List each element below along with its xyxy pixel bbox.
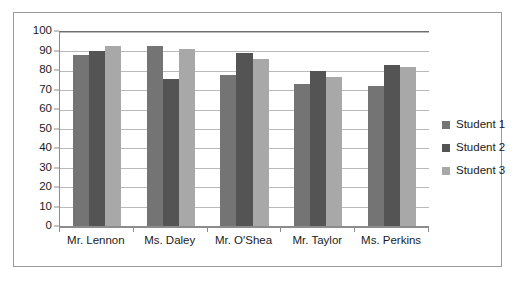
bar[interactable] <box>73 55 89 226</box>
chart-screenshot: 1009080706050403020100 Mr. LennonMs. Dal… <box>0 0 517 282</box>
bar[interactable] <box>220 75 236 226</box>
y-tick-mark-40 <box>54 148 59 149</box>
bar[interactable] <box>179 49 195 226</box>
bar-group <box>147 32 195 226</box>
y-tick-label-60: 60 <box>39 103 52 115</box>
bar[interactable] <box>310 71 326 226</box>
legend-item-label: Student 2 <box>456 142 505 154</box>
x-tick-label: Mr. Taylor <box>292 235 342 247</box>
x-tick-label: Ms. Daley <box>144 235 195 247</box>
x-tick-label: Ms. Perkins <box>361 235 421 247</box>
y-tick-mark-80 <box>54 70 59 71</box>
y-tick-label-30: 30 <box>39 162 52 174</box>
y-tick-label-80: 80 <box>39 64 52 76</box>
y-tick-label-50: 50 <box>39 123 52 135</box>
legend-swatch-icon <box>442 144 450 152</box>
bar[interactable] <box>163 79 179 226</box>
y-tick-label-100: 100 <box>33 25 52 37</box>
x-tick-mark <box>354 226 355 232</box>
bar[interactable] <box>326 77 342 226</box>
bar[interactable] <box>294 84 310 226</box>
x-tick-mark <box>59 226 60 232</box>
gridline-0 <box>60 226 429 228</box>
y-tick-label-0: 0 <box>46 220 52 232</box>
bar-group <box>368 32 416 226</box>
x-tick-mark <box>428 226 429 232</box>
x-tick-mark <box>207 226 208 232</box>
legend-item[interactable]: Student 3 <box>442 159 505 182</box>
x-tick-label: Mr. Lennon <box>67 235 125 247</box>
bar[interactable] <box>105 46 121 226</box>
bar[interactable] <box>384 65 400 226</box>
y-tick-mark-10 <box>54 206 59 207</box>
bar-group <box>294 32 342 226</box>
y-tick-label-90: 90 <box>39 45 52 57</box>
y-tick-mark-90 <box>54 50 59 51</box>
legend-swatch-icon <box>442 167 450 175</box>
x-tick-mark <box>280 226 281 232</box>
bar-group <box>220 32 268 226</box>
y-tick-mark-100 <box>54 31 59 32</box>
legend-item-label: Student 3 <box>456 165 505 177</box>
y-tick-label-20: 20 <box>39 181 52 193</box>
x-tick-label: Mr. O'Shea <box>215 235 272 247</box>
y-tick-mark-60 <box>54 109 59 110</box>
y-tick-mark-70 <box>54 89 59 90</box>
bar[interactable] <box>89 51 105 226</box>
bars-layer <box>60 32 429 226</box>
bar-group <box>73 32 121 226</box>
plot-region: 1009080706050403020100 Mr. LennonMs. Dal… <box>59 31 429 226</box>
bar[interactable] <box>253 59 269 226</box>
bar[interactable] <box>400 67 416 226</box>
legend-item[interactable]: Student 1 <box>442 113 505 136</box>
bar[interactable] <box>368 86 384 226</box>
legend-item[interactable]: Student 2 <box>442 136 505 159</box>
plot-area <box>59 31 429 226</box>
legend-item-label: Student 1 <box>456 119 505 131</box>
chart-legend: Student 1Student 2Student 3 <box>442 113 505 182</box>
bar[interactable] <box>147 46 163 226</box>
y-tick-label-40: 40 <box>39 142 52 154</box>
y-tick-mark-50 <box>54 128 59 129</box>
x-tick-mark <box>133 226 134 232</box>
legend-swatch-icon <box>442 121 450 129</box>
y-tick-mark-20 <box>54 187 59 188</box>
y-tick-label-70: 70 <box>39 84 52 96</box>
y-tick-label-10: 10 <box>39 201 52 213</box>
y-tick-mark-30 <box>54 167 59 168</box>
bar[interactable] <box>236 53 252 226</box>
chart-frame: 1009080706050403020100 Mr. LennonMs. Dal… <box>13 12 502 267</box>
